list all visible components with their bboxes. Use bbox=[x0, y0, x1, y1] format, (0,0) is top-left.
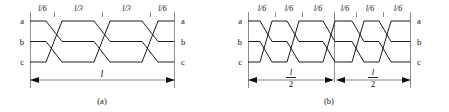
panel-a-segment-label-4: l/6 bbox=[158, 4, 166, 13]
panel-a-caption: (a) bbox=[97, 96, 107, 106]
panel-b-right-label-b: b bbox=[417, 37, 421, 47]
panel-b-right-label-a: a bbox=[417, 16, 421, 26]
panel-a-left-label-b: b bbox=[20, 37, 24, 47]
panel-b-dimension-right-denominator: 2 bbox=[371, 79, 376, 89]
panel-b-right-label-c: c bbox=[417, 57, 421, 67]
panel-b-segment-label-4: l/6 bbox=[341, 4, 349, 13]
panel-b-dimension-arrow-3 bbox=[336, 77, 345, 83]
panel-a-dimension-arrow-right bbox=[166, 77, 175, 83]
panel-b-dimension-arrow-2 bbox=[325, 77, 334, 83]
panel-b-caption: (b) bbox=[324, 96, 334, 106]
panel-b-segment-label-6: l/6 bbox=[394, 4, 402, 13]
panel-b-left-label-c: c bbox=[238, 57, 242, 67]
panel-a-left-label-a: a bbox=[20, 16, 24, 26]
panel-b-segment-label-3: l/6 bbox=[314, 4, 322, 13]
panel-b-segment-label-2: l/6 bbox=[285, 4, 293, 13]
panel-a-conductor-2 bbox=[30, 21, 174, 62]
transposition-figure: a b c a b c l/6 l/3 l/3 l/6 l (a) bbox=[0, 0, 449, 112]
panel-b-segment-label-1: l/6 bbox=[258, 4, 266, 13]
panel-a-segment-label-2: l/3 bbox=[74, 4, 82, 13]
panel-a-right-label-b: b bbox=[181, 37, 185, 47]
panel-b-conductor-1 bbox=[248, 21, 410, 62]
panel-a-right-label-a: a bbox=[181, 16, 185, 26]
panel-b-left-label-a: a bbox=[238, 16, 242, 26]
panel-b-segment-label-5: l/6 bbox=[366, 4, 374, 13]
panel-a-diagram: a b c a b c l/6 l/3 l/3 l/6 l (a) bbox=[0, 0, 224, 112]
panel-b-dimension-arrow-4 bbox=[402, 77, 411, 83]
panel-b-dimension-left-denominator: 2 bbox=[289, 79, 294, 89]
panel-b-diagram: a b c a b c l/6 l/6 l/6 l/6 l/6 l/6 l 2 … bbox=[224, 0, 449, 112]
panel-a-segment-label-3: l/3 bbox=[122, 4, 130, 13]
panel-a-segment-label-1: l/6 bbox=[38, 4, 46, 13]
panel-b-dimension-left-numerator: l bbox=[290, 67, 293, 77]
panel-a-dimension-label: l bbox=[101, 68, 104, 79]
panel-b-left-label-b: b bbox=[238, 37, 242, 47]
panel-a-left-label-c: c bbox=[20, 57, 24, 67]
panel-b-dimension-arrow-1 bbox=[248, 77, 257, 83]
panel-a-dimension-arrow-left bbox=[30, 77, 39, 83]
panel-b-dimension-right-numerator: l bbox=[372, 67, 375, 77]
panel-a-right-label-c: c bbox=[181, 57, 185, 67]
